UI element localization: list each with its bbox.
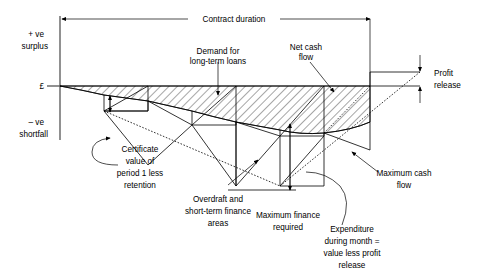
- certificate-value-label-line2: value of: [126, 157, 155, 166]
- contract-duration-label: Contract duration: [203, 15, 266, 24]
- overdraft-label-line3: areas: [208, 219, 228, 228]
- certificate-value-label-line1: Certificate: [122, 145, 159, 154]
- overdraft-label-line2: short-term finance: [185, 207, 251, 216]
- axis-currency-label: £: [39, 82, 44, 91]
- profit-release-label-line2: release: [434, 81, 461, 90]
- certificate-value-leader: [92, 138, 118, 165]
- maximum-cash-flow-label-line1: Maximum cash: [376, 169, 431, 178]
- maximum-cash-flow-label-line2: flow: [397, 181, 412, 190]
- expenditure-label-line4: release: [339, 261, 366, 270]
- net-cash-flow-label-line1: Net cash: [290, 43, 323, 52]
- demand-long-term-loans-label-line2: long-term loans: [190, 57, 246, 66]
- maximum-finance-label-line2: required: [273, 223, 303, 232]
- axis-negative-label-line2: shortfall: [19, 130, 48, 139]
- axis-positive-label-line1: + ve: [28, 30, 44, 39]
- axis-positive-label-line2: surplus: [22, 42, 48, 51]
- cash-flow-diagram: + ve surplus £ – ve shortfall Contract d…: [0, 0, 488, 278]
- certificate-value-label-line3: period 1 less: [117, 169, 163, 178]
- maximum-finance-label-line1: Maximum finance: [256, 211, 321, 220]
- demand-long-term-loans-label-line1: Demand for: [197, 47, 240, 56]
- profit-release-label-line1: Profit: [434, 69, 454, 78]
- net-cash-flow-label-line2: flow: [299, 53, 314, 62]
- certificate-value-label-line4: retention: [124, 181, 156, 190]
- expenditure-label-line3: value less profit: [324, 249, 382, 258]
- axis-negative-label-line1: – ve: [29, 118, 45, 127]
- expenditure-label-line2: during month =: [325, 237, 380, 246]
- overdraft-label-line1: Overdraft and: [193, 195, 244, 204]
- overdraft-areas-leader: [228, 160, 258, 185]
- expenditure-label-line1: Expenditure: [330, 225, 374, 234]
- diagram-canvas: + ve surplus £ – ve shortfall Contract d…: [0, 0, 488, 278]
- maximum-cash-flow-leader: [352, 152, 378, 172]
